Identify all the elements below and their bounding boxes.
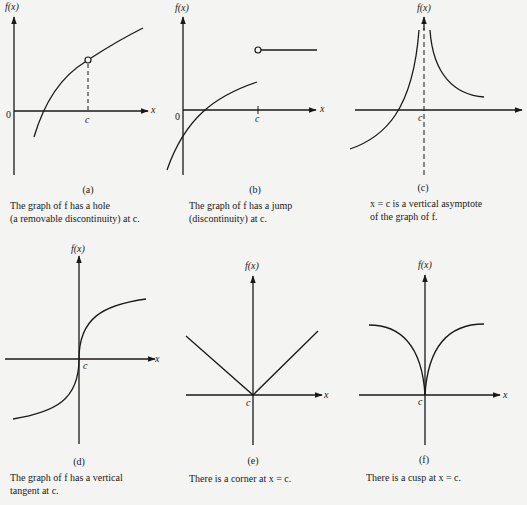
panel-d-y-label: f(x) [71,244,85,254]
panel-e-c-label: c [246,398,250,408]
panel-a-origin-label: 0 [6,110,11,120]
hole-marker [85,57,91,63]
caption-line: The graph of f has a hole [10,199,180,212]
panel-e-tag: (e) [238,456,268,466]
cusp-right [425,324,484,395]
caption-line: (discontinuity) at c. [189,212,359,225]
panel-b-x-label: x [320,104,324,114]
curve [167,82,257,170]
panel-a-graph [14,17,148,175]
caption-line: There is a cusp at x = c. [366,471,527,484]
caption-line: There is a corner at x = c. [189,472,359,485]
caption-line: (a removable discontinuity) at c. [10,212,180,225]
panel-a-c-label: c [85,115,89,125]
panel-c-caption: x = c is a vertical asymptote of the gra… [370,197,527,223]
panel-f-tag: (f) [409,455,439,465]
panel-b-caption: The graph of f has a jump (discontinuity… [189,199,359,225]
panel-e-caption: There is a corner at x = c. [189,472,359,485]
panel-e-y-label: f(x) [245,261,259,271]
panel-c-graph [350,17,522,175]
panel-a-tag: (a) [73,185,103,195]
panel-b-y-label: f(x) [175,3,189,13]
panel-d-graph [5,256,155,444]
panel-c-tag: (c) [408,183,438,193]
panel-f-graph [359,275,500,445]
caption-line: tangent at c. [10,484,180,497]
curve-right [430,30,484,97]
panel-e-graph [186,276,322,445]
panel-a-y-label: f(x) [5,2,19,12]
panel-c-c-label: c [418,113,422,123]
cusp-left [369,325,425,395]
panel-b-origin-label: 0 [175,112,180,122]
panel-a-x-label: x [151,105,155,115]
caption-line: The graph of f has a vertical [10,471,180,484]
curve-left [350,30,419,149]
corner-lines [186,331,318,395]
panel-e-x-label: x [324,390,328,400]
panel-f-c-label: c [418,397,422,407]
open-circle [255,47,261,53]
curve [91,28,143,58]
panel-f-x-label: x [503,390,507,400]
panel-d-c-label: c [83,361,87,371]
panel-b-tag: (b) [240,185,270,195]
curve [34,62,85,137]
panel-d-caption: The graph of f has a vertical tangent at… [10,471,180,497]
panel-b-c-label: c [255,114,259,124]
panel-f-caption: There is a cusp at x = c. [366,471,527,484]
caption-line: x = c is a vertical asymptote [370,197,527,210]
caption-line: of the graph of f. [370,210,527,223]
panel-d-tag: (d) [64,457,94,467]
panel-f-y-label: f(x) [418,260,432,270]
panel-a-caption: The graph of f has a hole (a removable d… [10,199,180,225]
caption-line: The graph of f has a jump [189,199,359,212]
panel-d-x-label: x [155,354,159,364]
panel-c-y-label: f(x) [417,3,431,13]
panel-b-graph [167,17,317,175]
